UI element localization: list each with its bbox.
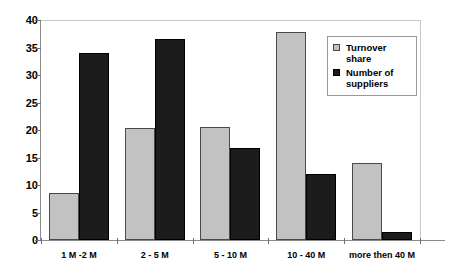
y-axis: 4035302520151050: [0, 0, 38, 277]
bar: [306, 174, 336, 240]
y-axis-tick-label: 0: [4, 235, 38, 246]
bar-group: [193, 20, 269, 240]
legend-swatch-turnover-share-icon: [333, 44, 340, 51]
x-axis-category-label: 1 M -2 M: [41, 250, 117, 260]
x-axis-category-label: 10 - 40 M: [268, 250, 344, 260]
x-axis-line: [40, 240, 445, 241]
x-axis-tick-mark: [41, 238, 42, 244]
y-axis-tick-label: 5: [4, 207, 38, 218]
bar: [352, 163, 382, 240]
bar-chart: 4035302520151050 1 M -2 M2 - 5 M5 - 10 M…: [0, 0, 460, 277]
x-axis-tick-mark: [117, 238, 118, 244]
legend-label: Turnover share: [346, 42, 412, 64]
bar: [230, 148, 260, 240]
x-axis-tick-mark: [420, 238, 421, 244]
bar: [276, 32, 306, 240]
y-axis-tick-label: 40: [4, 15, 38, 26]
bar: [155, 39, 185, 240]
chart-legend: Turnover share Number of suppliers: [327, 36, 417, 96]
bar: [382, 232, 412, 240]
y-axis-tick-mark: [35, 213, 41, 214]
y-axis-tick-mark: [35, 130, 41, 131]
x-axis-tick-mark: [193, 238, 194, 244]
bar: [125, 128, 155, 240]
y-axis-tick-mark: [35, 240, 41, 241]
y-axis-tick-mark: [35, 75, 41, 76]
x-axis-tick-mark: [344, 238, 345, 244]
bar-group: [117, 20, 193, 240]
bar: [200, 127, 230, 240]
y-axis-tick-mark: [35, 158, 41, 159]
legend-item[interactable]: Turnover share: [333, 42, 412, 64]
legend-item[interactable]: Number of suppliers: [333, 67, 412, 89]
bar-group: [41, 20, 117, 240]
y-axis-tick-mark: [35, 185, 41, 186]
y-axis-tick-label: 20: [4, 125, 38, 136]
y-axis-tick-mark: [35, 20, 41, 21]
legend-swatch-number-of-suppliers-icon: [333, 69, 340, 76]
bar: [49, 193, 79, 240]
plot-right-border: [420, 20, 421, 241]
x-axis-category-label: 2 - 5 M: [117, 250, 193, 260]
y-axis-tick-label: 30: [4, 70, 38, 81]
y-axis-tick-label: 10: [4, 180, 38, 191]
x-axis-category-label: 5 - 10 M: [193, 250, 269, 260]
y-axis-tick-mark: [35, 103, 41, 104]
bar: [79, 53, 109, 240]
y-axis-tick-label: 25: [4, 97, 38, 108]
y-axis-tick-label: 15: [4, 152, 38, 163]
x-axis-category-label: more then 40 M: [344, 250, 420, 260]
x-axis-tick-mark: [268, 238, 269, 244]
y-axis-tick-mark: [35, 48, 41, 49]
legend-label: Number of suppliers: [346, 67, 412, 89]
y-axis-tick-label: 35: [4, 42, 38, 53]
